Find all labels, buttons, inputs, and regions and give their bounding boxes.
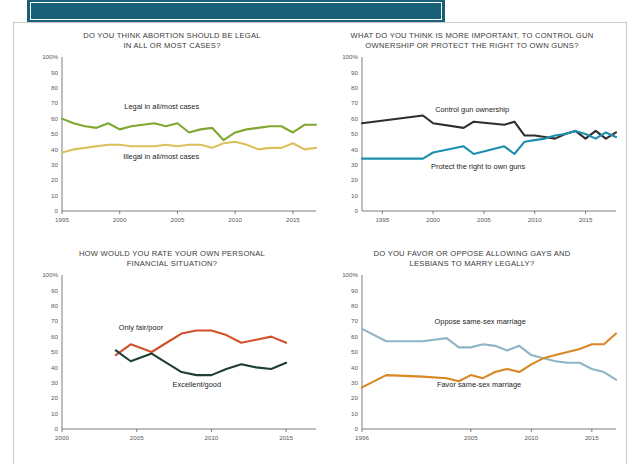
chart-grid: DO YOU THINK ABORTION SHOULD BE LEGAL IN… [14,23,626,463]
series-label: Excellent/good [173,380,221,389]
y-tick-label: 10 [351,410,358,417]
series-line [62,119,316,141]
chart-title-line-2: LESBIANS TO MARRY LEGALLY? [340,259,604,269]
x-tick-label: 2005 [171,216,185,223]
y-tick-label: 0 [355,207,359,214]
chart-title-line-2: OWNERSHIP OR PROTECT THE RIGHT TO OWN GU… [340,41,604,51]
y-tick-label: 90 [351,287,358,294]
x-tick-label: 2010 [205,434,219,441]
series-label: Illegal in all/most cases [123,152,199,161]
y-tick-label: 90 [51,287,58,294]
series-line [116,330,286,355]
x-tick-label: 2010 [528,216,542,223]
plot-guns: 0102030405060708090100%19952000200520102… [322,51,622,241]
y-tick-label: 40 [351,364,358,371]
chart-title-line-1: DO YOU THINK ABORTION SHOULD BE LEGAL [40,31,304,41]
x-tick-label: 2015 [579,216,593,223]
x-tick-label: 2010 [228,216,242,223]
y-tick-label: 20 [351,394,358,401]
y-tick-label: 60 [51,333,58,340]
y-tick-label: 70 [51,99,58,106]
y-tick-label: 10 [51,410,58,417]
y-tick-label: 70 [51,317,58,324]
y-tick-label: 40 [51,364,58,371]
x-tick-label: 1996 [355,434,369,441]
line-chart-finance: 0102030405060708090100%2000200520102015O… [22,269,322,459]
x-tick-label: 2015 [279,434,293,441]
x-tick-label: 2015 [286,216,300,223]
y-tick-label: 30 [51,161,58,168]
plot-abortion: 0102030405060708090100%19952000200520102… [22,51,322,241]
line-chart-marriage: 0102030405060708090100%1996200520102015O… [322,269,622,459]
y-tick-label: 10 [351,192,358,199]
y-tick-label: 50 [51,130,58,137]
y-tick-label: 50 [51,348,58,355]
y-tick-label: 20 [351,176,358,183]
y-tick-label: 0 [55,425,59,432]
chart-title-guns: WHAT DO YOU THINK IS MORE IMPORTANT, TO … [322,25,622,51]
y-tick-label: 80 [51,84,58,91]
y-tick-label: 0 [355,425,359,432]
chart-title-finance: HOW WOULD YOU RATE YOUR OWN PERSONAL FIN… [22,243,322,269]
y-tick-label: 100% [42,271,58,278]
chart-title-line-1: HOW WOULD YOU RATE YOUR OWN PERSONAL [40,249,304,259]
panel-guns: WHAT DO YOU THINK IS MORE IMPORTANT, TO … [322,25,622,243]
y-tick-label: 100% [342,271,358,278]
y-tick-label: 100% [42,53,58,60]
series-label: Protect the right to own guns [431,162,525,171]
panel-marriage: DO YOU FAVOR OR OPPOSE ALLOWING GAYS AND… [322,243,622,461]
x-tick-label: 2010 [524,434,538,441]
x-tick-label: 2005 [464,434,478,441]
y-tick-label: 40 [351,146,358,153]
y-tick-label: 50 [351,130,358,137]
x-tick-label: 1995 [375,216,389,223]
y-tick-label: 0 [55,207,59,214]
y-tick-label: 80 [351,84,358,91]
chart-title-line-2: FINANCIAL SITUATION? [40,259,304,269]
series-label: Legal in all/most cases [124,102,199,111]
chart-title-line-1: WHAT DO YOU THINK IS MORE IMPORTANT, TO … [340,31,604,41]
header-banner-inner-border [30,2,442,20]
line-chart-guns: 0102030405060708090100%19952000200520102… [322,51,622,241]
panel-abortion: DO YOU THINK ABORTION SHOULD BE LEGAL IN… [22,25,322,243]
x-tick-label: 2015 [585,434,599,441]
chart-title-abortion: DO YOU THINK ABORTION SHOULD BE LEGAL IN… [22,25,322,51]
series-label: Favor same-sex marriage [437,380,521,389]
y-tick-label: 10 [51,192,58,199]
plot-finance: 0102030405060708090100%2000200520102015O… [22,269,322,459]
y-tick-label: 60 [351,115,358,122]
series-label: Only fair/poor [119,323,164,332]
x-tick-label: 2000 [55,434,69,441]
series-label: Oppose same-sex marriage [435,317,526,326]
x-tick-label: 2000 [113,216,127,223]
y-tick-label: 30 [51,379,58,386]
y-tick-label: 90 [351,69,358,76]
y-tick-label: 20 [51,176,58,183]
y-tick-label: 90 [51,69,58,76]
y-tick-label: 60 [51,115,58,122]
x-tick-label: 2005 [130,434,144,441]
y-tick-label: 20 [51,394,58,401]
y-tick-label: 70 [351,99,358,106]
chart-title-marriage: DO YOU FAVOR OR OPPOSE ALLOWING GAYS AND… [322,243,622,269]
x-tick-label: 2005 [477,216,491,223]
series-line [362,329,616,380]
y-tick-label: 30 [351,379,358,386]
y-tick-label: 40 [51,146,58,153]
y-tick-label: 60 [351,333,358,340]
line-chart-abortion: 0102030405060708090100%19952000200520102… [22,51,322,241]
y-tick-label: 50 [351,348,358,355]
y-tick-label: 80 [351,302,358,309]
y-tick-label: 100% [342,53,358,60]
y-tick-label: 70 [351,317,358,324]
chart-title-line-2: IN ALL OR MOST CASES? [40,41,304,51]
header-banner [27,0,445,22]
series-line [362,131,616,159]
series-label: Control gun ownership [435,105,509,114]
x-tick-label: 2000 [426,216,440,223]
panel-finance: HOW WOULD YOU RATE YOUR OWN PERSONAL FIN… [22,243,322,461]
plot-marriage: 0102030405060708090100%1996200520102015O… [322,269,622,459]
chart-title-line-1: DO YOU FAVOR OR OPPOSE ALLOWING GAYS AND [340,249,604,259]
y-tick-label: 30 [351,161,358,168]
y-tick-label: 80 [51,302,58,309]
